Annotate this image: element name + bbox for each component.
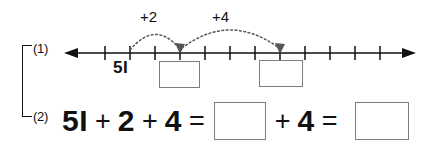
- equation-term-4a: 4: [165, 106, 182, 136]
- equation-operator-plus-1: +: [94, 108, 112, 135]
- worksheet: (1) (2): [0, 0, 440, 146]
- arrow-left-icon: [64, 48, 78, 58]
- equation-term-start: 5I: [62, 106, 88, 136]
- equation-term-2: 2: [118, 106, 135, 136]
- number-line-answer-box-1[interactable]: [159, 61, 200, 88]
- jump-arc-2-label: +4: [212, 8, 229, 25]
- tick-marks: [105, 46, 380, 60]
- equation: 5I + 2 + 4 = + 4 =: [62, 98, 411, 144]
- number-line-start-value: 5I: [113, 58, 128, 78]
- equation-term-4b: 4: [298, 106, 315, 136]
- equation-operator-plus-2: +: [141, 108, 159, 135]
- jump-arc-1-label: +2: [140, 8, 157, 25]
- equation-operator-equals-1: =: [188, 108, 206, 135]
- equation-operator-plus-3: +: [274, 108, 292, 135]
- row-label-1: (1): [33, 41, 48, 56]
- equation-answer-box-2[interactable]: [355, 102, 409, 140]
- row-group-bracket: [22, 45, 32, 117]
- number-line-answer-box-2[interactable]: [259, 60, 303, 87]
- jump-arc-2: [182, 30, 285, 54]
- equation-operator-equals-2: =: [321, 108, 339, 135]
- jump-arc-1: [130, 34, 185, 54]
- row-label-2: (2): [33, 109, 48, 124]
- equation-answer-box-1[interactable]: [214, 102, 266, 140]
- arrow-right-icon: [402, 48, 416, 58]
